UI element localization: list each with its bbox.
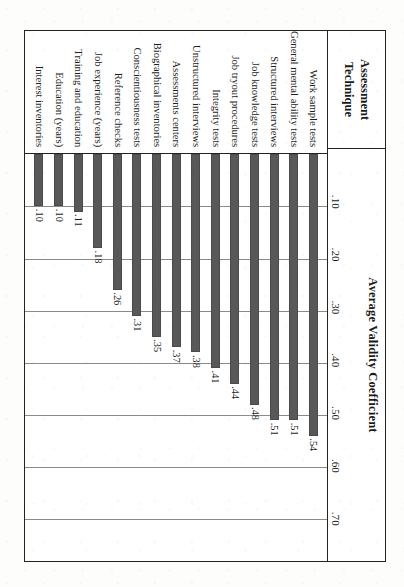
bar-row: .10	[34, 154, 43, 561]
bar-row: .48	[250, 154, 259, 561]
assessment-technique-header-line1: Assessment	[358, 59, 372, 120]
chart-axis-title: Average Validity Coefficient	[365, 149, 380, 561]
bar-row: .51	[270, 154, 279, 561]
bar	[230, 154, 239, 383]
bar-value-label: .51	[269, 423, 279, 436]
category-label: Work sample tests	[308, 31, 319, 153]
bar	[34, 154, 43, 206]
category-label-column: Work sample testsGeneral mental ability …	[25, 31, 327, 154]
x-axis-tick-labels: .10.20.30.40.50.60.70	[330, 149, 350, 561]
bar-value-label: .51	[288, 423, 298, 436]
axis-tick-label: .20	[330, 248, 342, 262]
category-label: Job tryout procedures	[230, 31, 241, 153]
bar	[93, 154, 102, 248]
bar-row: .18	[93, 154, 102, 561]
category-label: Integrity tests	[210, 31, 221, 153]
assessment-technique-header: Assessment Technique	[328, 31, 385, 149]
bar	[250, 154, 259, 404]
bar	[54, 154, 63, 206]
bar-row: .26	[113, 154, 122, 561]
category-label: Education (years)	[53, 31, 64, 153]
validity-coefficient-header: Average Validity Coefficient .10.20.30.4…	[328, 149, 385, 561]
bar-value-label: .31	[132, 318, 142, 331]
bar-value-label: .38	[190, 355, 200, 368]
category-label: Biographical inventories	[151, 31, 162, 153]
bar-row: .41	[211, 154, 220, 561]
bar-row: .31	[132, 154, 141, 561]
table-header-row: Assessment Technique Average Validity Co…	[327, 31, 385, 561]
bar-value-label: .26	[112, 292, 122, 305]
bar	[309, 154, 318, 436]
category-label: Unstructured interviews	[190, 31, 201, 153]
bar-value-label: .10	[34, 209, 44, 222]
category-label: Job experience (years)	[92, 31, 103, 153]
bar	[191, 154, 200, 352]
bar-value-label: .10	[53, 209, 63, 222]
bar	[152, 154, 161, 337]
category-label: Conscientiousness tests	[132, 31, 143, 153]
bar-chart-plot-area: .54.51.51.48.44.41.38.37.35.31.26.18.11.…	[25, 154, 327, 561]
category-label: Assessments centers	[171, 31, 182, 153]
bar	[172, 154, 181, 347]
bar-value-label: .48	[249, 407, 259, 420]
bar-value-label: .41	[210, 371, 220, 384]
assessment-technique-header-line2: Technique	[343, 62, 357, 117]
bar-value-label: .37	[171, 350, 181, 363]
bar-value-label: .35	[151, 339, 161, 352]
bar-value-label: .54	[308, 438, 318, 451]
bar-row: .37	[172, 154, 181, 561]
rotated-figure-container: Assessment Technique Average Validity Co…	[24, 30, 386, 562]
bar	[270, 154, 279, 420]
bar-row: .38	[191, 154, 200, 561]
category-label: Interest inventories	[34, 31, 45, 153]
bar-row: .51	[289, 154, 298, 561]
category-label: Job knowledge tests	[249, 31, 260, 153]
axis-tick-label: .10	[330, 195, 342, 209]
axis-tick-label: .70	[330, 512, 342, 526]
bar-row: .44	[230, 154, 239, 561]
bar-row: .10	[54, 154, 63, 561]
axis-tick-label: .40	[330, 353, 342, 367]
category-label: General mental ability tests	[288, 31, 299, 153]
bar-row: .35	[152, 154, 161, 561]
bar	[113, 154, 122, 290]
table-body-row: Work sample testsGeneral mental ability …	[25, 31, 327, 561]
category-label: Reference checks	[112, 31, 123, 153]
chart-table-figure: Assessment Technique Average Validity Co…	[24, 30, 386, 562]
axis-tick-label: .60	[330, 459, 342, 473]
category-label: Structured interviews	[269, 31, 280, 153]
bar	[211, 154, 220, 368]
bar-row: .54	[309, 154, 318, 561]
axis-tick-label: .30	[330, 300, 342, 314]
bar	[132, 154, 141, 316]
bar-value-label: .11	[73, 214, 83, 227]
bar-value-label: .18	[92, 251, 102, 264]
bar-value-label: .44	[230, 386, 240, 399]
bar	[289, 154, 298, 420]
category-label: Training and education	[73, 31, 84, 153]
bar	[74, 154, 83, 211]
bar-row: .11	[74, 154, 83, 561]
bars-container: .54.51.51.48.44.41.38.37.35.31.26.18.11.…	[25, 154, 327, 561]
axis-tick-label: .50	[330, 406, 342, 420]
